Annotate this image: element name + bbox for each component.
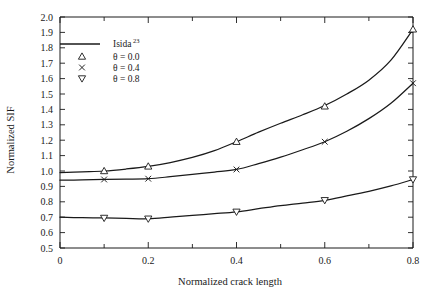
legend-marker-triangle-up bbox=[78, 53, 85, 59]
x-tick-label: 0.2 bbox=[142, 255, 155, 266]
y-tick-label: 1.0 bbox=[41, 166, 54, 177]
legend-theta-0-8: θ = 0.8 bbox=[78, 74, 139, 84]
x-axis-tick-labels: 00.20.40.60.8 bbox=[58, 255, 420, 266]
legend-marker-triangle-down bbox=[78, 76, 85, 82]
legend-theta-0-0: θ = 0.0 bbox=[78, 52, 139, 62]
legend-theta-0-4: θ = 0.4 bbox=[79, 63, 140, 73]
y-tick-label: 1.5 bbox=[41, 89, 54, 100]
curve-series-1 bbox=[60, 83, 413, 180]
marker-series-0 bbox=[409, 26, 416, 32]
legend: Isida23θ = 0.0θ = 0.4θ = 0.8 bbox=[60, 37, 140, 84]
y-tick-label: 0.5 bbox=[41, 243, 54, 254]
legend-label: θ = 0.0 bbox=[113, 52, 140, 62]
legend-label: θ = 0.8 bbox=[113, 74, 140, 84]
y-axis-tick-labels: 0.50.60.70.80.91.01.11.21.31.41.51.61.71… bbox=[41, 12, 54, 254]
y-tick-label: 1.8 bbox=[41, 42, 54, 53]
y-tick-label: 1.7 bbox=[41, 58, 54, 69]
y-tick-label: 0.6 bbox=[41, 227, 54, 238]
legend-marker-cross bbox=[79, 65, 85, 71]
y-tick-label: 0.9 bbox=[41, 181, 54, 192]
legend-label: Isida23 bbox=[113, 37, 139, 49]
y-tick-label: 1.4 bbox=[41, 104, 54, 115]
x-tick-label: 0.6 bbox=[319, 255, 332, 266]
x-tick-label: 0.8 bbox=[407, 255, 420, 266]
x-tick-label: 0.4 bbox=[230, 255, 243, 266]
y-tick-label: 1.2 bbox=[41, 135, 54, 146]
x-tick-label: 0 bbox=[58, 255, 63, 266]
y-tick-label: 1.9 bbox=[41, 27, 54, 38]
y-tick-label: 2.0 bbox=[41, 12, 54, 23]
data-markers bbox=[101, 26, 417, 223]
y-tick-label: 1.1 bbox=[41, 150, 54, 161]
x-axis-title: Normalized crack length bbox=[178, 276, 283, 287]
y-axis-title: Normalized SIF bbox=[5, 106, 16, 174]
legend-isida: Isida23 bbox=[60, 37, 139, 49]
y-tick-label: 0.7 bbox=[41, 212, 54, 223]
chart-figure: 0.50.60.70.80.91.01.11.21.31.41.51.61.71… bbox=[0, 0, 424, 293]
marker-series-1 bbox=[322, 139, 328, 145]
curve-series-0 bbox=[60, 29, 413, 172]
y-tick-label: 1.3 bbox=[41, 119, 54, 130]
legend-label: θ = 0.4 bbox=[113, 63, 140, 73]
chart-canvas: 0.50.60.70.80.91.01.11.21.31.41.51.61.71… bbox=[0, 0, 424, 293]
y-tick-label: 1.6 bbox=[41, 73, 54, 84]
y-tick-label: 0.8 bbox=[41, 196, 54, 207]
